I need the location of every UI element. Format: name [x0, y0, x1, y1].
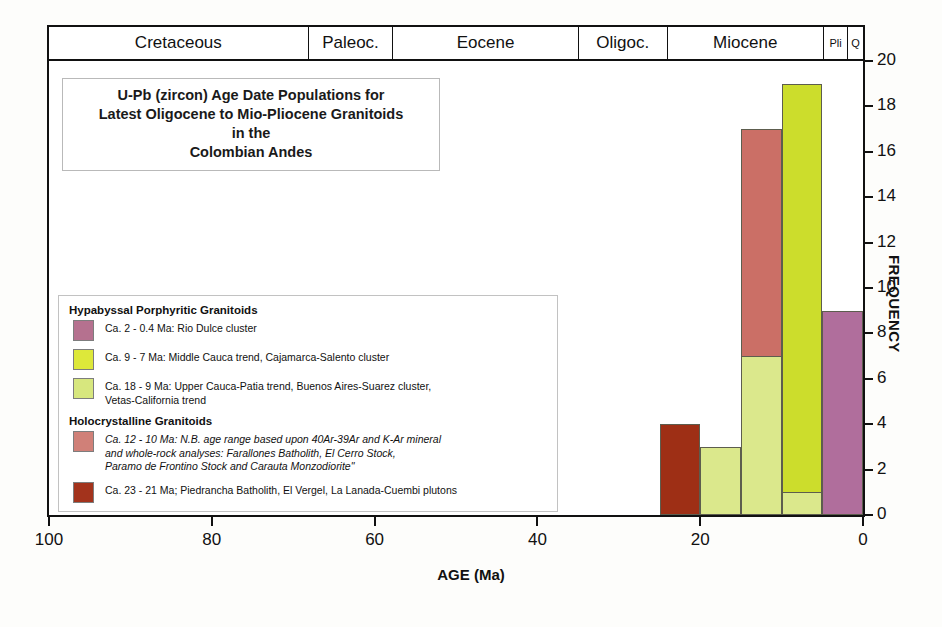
timescale-cell-miocene: Miocene [668, 27, 824, 59]
legend-label-rio-dulce: Ca. 2 - 0.4 Ma: Rio Dulce cluster [105, 319, 257, 336]
legend-swatch-upper-cauca-patia [73, 378, 94, 399]
legend-group-heading-holocrystalline: Holocrystalline Granitoids [69, 415, 549, 427]
timescale-cell-paleoc: Paleoc. [309, 27, 394, 59]
y-axis-tick-label: 8 [877, 322, 886, 342]
legend: Hypabyssal Porphyritic Granitoids Ca. 2 … [58, 295, 558, 512]
chart-title-line-4: Colombian Andes [73, 143, 429, 162]
y-axis-tick-label: 6 [877, 368, 886, 388]
legend-item: Ca. 12 - 10 Ma: N.B. age range based upo… [67, 430, 549, 475]
bar-segment [660, 424, 701, 515]
x-axis-tick-label: 40 [528, 530, 547, 550]
chart-title-box: U-Pb (zircon) Age Date Populations for L… [62, 78, 440, 171]
x-axis-tick [48, 517, 50, 526]
legend-swatch-rio-dulce [73, 320, 94, 341]
y-axis-tick-label: 16 [877, 141, 896, 161]
y-axis-tick [864, 469, 873, 471]
legend-label-line: and whole-rock analyses: Farallones Bath… [105, 447, 441, 461]
chart-title-line-3: in the [73, 124, 429, 143]
y-axis-tick [864, 514, 873, 516]
legend-label-upper-cauca-patia: Ca. 18 - 9 Ma: Upper Cauca-Patia trend, … [105, 377, 431, 408]
bar-segment [741, 356, 782, 515]
bar-segment [782, 492, 823, 515]
geologic-timescale-bar: CretaceousPaleoc.EoceneOligoc.MiocenePli… [47, 25, 865, 61]
histogram-bar [660, 424, 701, 515]
x-axis-title: AGE (Ma) [0, 566, 942, 583]
y-axis-tick [864, 378, 873, 380]
x-axis-line [47, 515, 865, 517]
x-axis-tick [374, 517, 376, 526]
histogram-bar [782, 84, 823, 515]
legend-label-line: Ca. 12 - 10 Ma: N.B. age range based upo… [105, 433, 441, 447]
bar-segment [700, 447, 741, 515]
x-axis-tick-label: 60 [365, 530, 384, 550]
y-axis-tick-label: 10 [877, 277, 896, 297]
chart-title-line-2: Latest Oligocene to Mio-Pliocene Granito… [73, 105, 429, 124]
chart-title-line-1: U-Pb (zircon) Age Date Populations for [73, 86, 429, 105]
legend-label-line: Ca. 18 - 9 Ma: Upper Cauca-Patia trend, … [105, 380, 431, 394]
histogram-bar [700, 447, 741, 515]
x-axis-tick [211, 517, 213, 526]
histogram-bar [741, 129, 782, 515]
legend-label-piedrancha: Ca. 23 - 21 Ma; Piedrancha Batholith, El… [105, 481, 457, 498]
x-axis-tick [699, 517, 701, 526]
timescale-cell-pli: Pli [824, 27, 848, 59]
y-axis-title: FREQUENCY [886, 255, 903, 353]
timescale-cell-oligoc: Oligoc. [579, 27, 668, 59]
y-axis-tick [864, 332, 873, 334]
histogram-bar [822, 311, 863, 515]
y-axis-tick [864, 423, 873, 425]
timescale-cell-cretaceous: Cretaceous [49, 27, 309, 59]
legend-swatch-middle-cauca [73, 349, 94, 370]
bar-segment [822, 311, 863, 515]
x-axis-tick-label: 20 [691, 530, 710, 550]
y-axis-tick-label: 18 [877, 95, 896, 115]
legend-item: Ca. 23 - 21 Ma; Piedrancha Batholith, El… [67, 481, 549, 503]
timescale-cell-q: Q [848, 27, 863, 59]
legend-label-line: Ca. 9 - 7 Ma: Middle Cauca trend, Cajama… [105, 351, 389, 365]
x-axis-tick-label: 0 [858, 530, 867, 550]
bar-segment [782, 84, 823, 493]
y-axis-tick [864, 196, 873, 198]
legend-label-middle-cauca: Ca. 9 - 7 Ma: Middle Cauca trend, Cajama… [105, 348, 389, 365]
y-axis-tick-label: 14 [877, 186, 896, 206]
y-axis-tick [864, 151, 873, 153]
timescale-cell-eocene: Eocene [393, 27, 579, 59]
y-axis-tick-label: 12 [877, 232, 896, 252]
legend-item: Ca. 9 - 7 Ma: Middle Cauca trend, Cajama… [67, 348, 549, 370]
figure-root: CretaceousPaleoc.EoceneOligoc.MiocenePli… [0, 0, 942, 627]
y-axis-tick [864, 287, 873, 289]
legend-label-line: Ca. 2 - 0.4 Ma: Rio Dulce cluster [105, 322, 257, 336]
legend-label-farallones: Ca. 12 - 10 Ma: N.B. age range based upo… [105, 430, 441, 475]
legend-label-line: Ca. 23 - 21 Ma; Piedrancha Batholith, El… [105, 484, 457, 498]
legend-item: Ca. 2 - 0.4 Ma: Rio Dulce cluster [67, 319, 549, 341]
x-axis-tick [862, 517, 864, 526]
bar-segment [741, 129, 782, 356]
y-axis-tick-label: 0 [877, 504, 886, 524]
y-axis-tick-label: 2 [877, 459, 886, 479]
legend-swatch-farallones [73, 431, 94, 452]
y-axis-tick [864, 242, 873, 244]
legend-label-line: Paramo de Frontino Stock and Carauta Mon… [105, 460, 441, 474]
y-axis-tick-label: 20 [877, 50, 896, 70]
x-axis-tick [536, 517, 538, 526]
legend-group-heading-hypabyssal: Hypabyssal Porphyritic Granitoids [69, 304, 549, 316]
y-axis-tick-label: 4 [877, 413, 886, 433]
legend-swatch-piedrancha [73, 482, 94, 503]
y-axis-tick [864, 105, 873, 107]
legend-label-line: Vetas-California trend [105, 394, 431, 408]
x-axis-tick-label: 80 [202, 530, 221, 550]
x-axis-tick-label: 100 [35, 530, 63, 550]
y-axis-tick [864, 60, 873, 62]
legend-item: Ca. 18 - 9 Ma: Upper Cauca-Patia trend, … [67, 377, 549, 408]
